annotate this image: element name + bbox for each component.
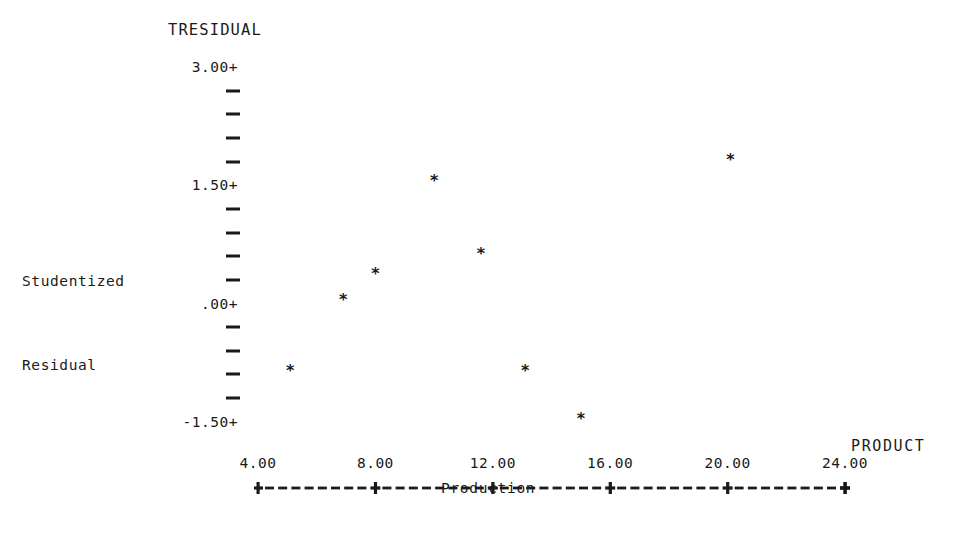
data-point-marker: * (577, 411, 585, 427)
x-axis-line (254, 442, 850, 458)
x-axis-tick-label: 4.00 (240, 455, 277, 471)
x-axis-tick-label: 8.00 (357, 455, 394, 471)
residual-plot-canvas: TRESIDUAL Studentized Residual 3.00+1.50… (0, 0, 977, 533)
y-axis-tick-label: 1.50+ (158, 177, 238, 193)
data-point-marker: * (726, 152, 734, 168)
x-axis-tick-label: 24.00 (822, 455, 868, 471)
data-point-marker: * (371, 266, 379, 282)
y-axis-tick-label: -1.50+ (158, 414, 238, 430)
x-axis-tick-label: 12.00 (470, 455, 516, 471)
y-axis-label: Studentized Residual (22, 211, 125, 435)
y-axis-minor-tick (226, 231, 240, 234)
x-axis-tick-label: 16.00 (587, 455, 633, 471)
y-axis-minor-tick (226, 89, 240, 92)
y-axis-minor-tick (226, 255, 240, 258)
y-axis-minor-tick (226, 160, 240, 163)
y-axis-minor-tick (226, 349, 240, 352)
data-point-marker: * (286, 363, 294, 379)
y-axis-minor-tick (226, 113, 240, 116)
y-axis-label-line-1: Studentized (22, 267, 125, 295)
x-axis-tick-label: 20.00 (705, 455, 751, 471)
y-axis-minor-tick (226, 397, 240, 400)
x-axis-variable-name: PRODUCT (851, 437, 925, 455)
y-axis-minor-tick (226, 136, 240, 139)
y-axis-tick-label: 3.00+ (158, 59, 238, 75)
data-point-marker: * (430, 173, 438, 189)
data-point-marker: * (521, 363, 529, 379)
y-axis-minor-tick (226, 278, 240, 281)
chart-title: TRESIDUAL (168, 21, 262, 39)
data-point-marker: * (477, 246, 485, 262)
y-axis-minor-tick (226, 373, 240, 376)
y-axis-label-line-2: Residual (22, 351, 125, 379)
y-axis-minor-tick (226, 326, 240, 329)
y-axis-minor-tick (226, 207, 240, 210)
data-point-marker: * (339, 292, 347, 308)
x-axis-label: Production (441, 480, 535, 496)
y-axis-tick-label: .00+ (158, 296, 238, 312)
